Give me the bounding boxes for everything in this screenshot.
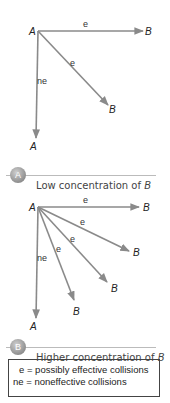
edge-label: e xyxy=(70,234,75,244)
edge-label: ne xyxy=(37,76,47,86)
collision-diagram: AeBeBneA AeBeBeBeBneA xyxy=(0,0,170,403)
origin-atom-label: A xyxy=(28,202,36,213)
legend-effective: e = possibly effective collisions xyxy=(13,364,155,376)
target-atom-label: A xyxy=(29,141,37,152)
caption-low-var: B xyxy=(144,180,151,191)
arrow-line xyxy=(38,31,108,105)
collision-arrow-effective: eB xyxy=(38,31,116,115)
target-atom-label: B xyxy=(133,247,140,258)
collision-arrow-effective: eB xyxy=(38,207,118,294)
legend-noneffective: ne = noneffective collisions xyxy=(13,376,155,388)
collision-arrow-effective: eB xyxy=(38,207,140,258)
target-atom-label: B xyxy=(143,202,150,213)
origin-atom-label: A xyxy=(28,26,36,37)
collision-arrow-noneffective: neA xyxy=(29,207,47,332)
target-atom-label: A xyxy=(29,321,37,332)
divider-low xyxy=(6,175,156,176)
collision-arrow-effective: eB xyxy=(38,195,150,213)
edge-label: e xyxy=(80,217,85,227)
edge-label: ne xyxy=(37,253,47,263)
edge-label: e xyxy=(56,244,61,254)
target-atom-label: B xyxy=(111,283,118,294)
collision-arrow-effective: eB xyxy=(38,19,152,37)
arrow-line xyxy=(38,207,107,282)
edge-label: e xyxy=(83,19,88,29)
caption-low-text: Low concentration of xyxy=(36,180,144,191)
panel-badge-a: A xyxy=(10,167,26,183)
edge-label: e xyxy=(83,195,88,205)
panel-low-concentration: AeBeBneA xyxy=(28,19,152,152)
legend-box: e = possibly effective collisions ne = n… xyxy=(8,359,160,397)
collision-arrow-noneffective: neA xyxy=(29,31,47,152)
target-atom-label: B xyxy=(109,104,116,115)
panel-high-concentration: AeBeBeBeBneA xyxy=(28,195,150,332)
caption-low: Low concentration of B xyxy=(36,180,151,191)
edge-label: e xyxy=(70,58,75,68)
divider-high xyxy=(6,347,156,348)
target-atom-label: B xyxy=(73,306,80,317)
target-atom-label: B xyxy=(145,26,152,37)
panel-badge-b: B xyxy=(10,339,26,355)
